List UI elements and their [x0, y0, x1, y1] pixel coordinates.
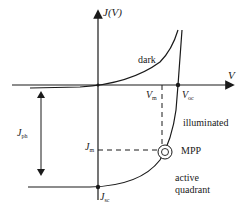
vm-label: Vm [146, 90, 157, 101]
mpp-label: MPP [181, 146, 201, 156]
dark-curve-label: dark [138, 55, 156, 65]
dark-curve [30, 30, 178, 88]
jph-label: Jph [17, 128, 27, 139]
illuminated-curve [28, 30, 182, 187]
jsc-point [96, 185, 100, 189]
voc-label: Voc [182, 90, 194, 101]
y-axis-label: J(V) [103, 7, 122, 18]
mpp-marker [158, 145, 172, 159]
active-quadrant-label-1: active [175, 173, 199, 183]
jsc-label: Jsc [100, 192, 109, 203]
origin-point [97, 84, 100, 87]
diagram-canvas [0, 0, 244, 211]
jm-label: Jm [85, 142, 94, 153]
illuminated-curve-label: illuminated [183, 118, 229, 128]
voc-point [176, 83, 180, 87]
x-axis-label: V [228, 70, 235, 81]
active-quadrant-label-2: quadrant [175, 185, 210, 195]
